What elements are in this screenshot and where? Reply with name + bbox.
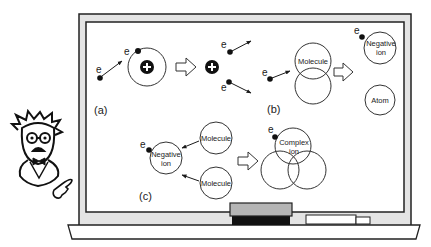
electron-label: e <box>221 82 227 93</box>
ejected-electron-dot <box>226 79 232 85</box>
attached-electron-dot <box>359 34 365 40</box>
eraser-top <box>230 203 292 216</box>
electron-label: e <box>96 64 102 75</box>
molecule-label: Molecule <box>201 134 231 143</box>
electron-label: e <box>124 46 130 57</box>
head <box>22 123 54 164</box>
electron-dot <box>267 76 273 82</box>
chalk-stick <box>306 215 356 224</box>
complex-ion-label: Complex <box>279 138 309 147</box>
orbital-electron-dot <box>135 48 141 54</box>
professor-illustration <box>12 111 72 198</box>
electron-label: e <box>268 124 274 135</box>
board-tray <box>68 225 420 239</box>
panel-label-c: (c) <box>139 190 152 202</box>
electron-label: e <box>262 67 268 78</box>
ejected-electron-dot <box>227 49 233 55</box>
chalk-stub <box>356 217 370 224</box>
board-surface <box>86 22 404 212</box>
diagram-canvas: e e e e (a) e Molecule e Negative ion <box>0 0 431 247</box>
molecule-label: Molecule <box>201 179 231 188</box>
molecule-label: Molecule <box>298 57 328 66</box>
negative-ion-label: Negative <box>151 150 181 159</box>
attached-electron-dot <box>272 134 278 140</box>
pointing-hand-icon <box>53 180 72 199</box>
panel-label-a: (a) <box>94 104 107 116</box>
complex-ion-label: ion <box>289 147 299 156</box>
negative-ion-label: ion <box>161 159 171 168</box>
electron-label: e <box>354 25 360 36</box>
electron-label: e <box>221 39 227 50</box>
negative-ion-label: ion <box>376 48 386 57</box>
electron-label: e <box>140 139 146 150</box>
negative-ion-label: Negative <box>366 39 396 48</box>
atom-label: Atom <box>371 96 389 105</box>
electron-dot <box>97 75 103 81</box>
panel-label-b: (b) <box>267 103 280 115</box>
mouth <box>33 148 44 151</box>
